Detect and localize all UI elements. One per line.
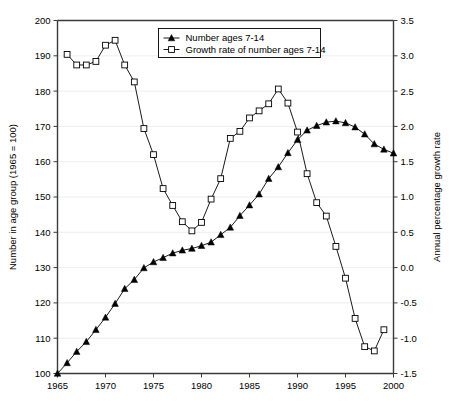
marker-square	[218, 176, 224, 182]
marker-triangle	[275, 164, 282, 170]
left-tick-label-170: 170	[35, 121, 51, 132]
marker-square	[179, 219, 185, 225]
left-tick-label-110: 110	[35, 333, 50, 344]
marker-square	[227, 136, 233, 142]
marker-triangle	[333, 118, 340, 124]
marker-triangle	[208, 239, 215, 245]
clipped-caption	[0, 403, 449, 410]
left-tick-label-180: 180	[35, 86, 51, 97]
x-tick-label-2000: 2000	[383, 380, 404, 391]
left-tick-label-190: 190	[35, 50, 51, 61]
legend-label-0: Number ages 7-14	[186, 32, 265, 43]
x-tick-label-1975: 1975	[143, 380, 164, 391]
right-tick-label-3.0: 3.0	[401, 50, 414, 61]
marker-square	[285, 100, 291, 106]
marker-triangle	[150, 258, 157, 264]
marker-triangle	[304, 127, 311, 133]
marker-triangle	[390, 150, 397, 156]
marker-square	[170, 203, 176, 209]
marker-square	[122, 62, 128, 68]
marker-square	[93, 59, 99, 65]
marker-square	[141, 126, 147, 132]
marker-square	[381, 327, 387, 333]
marker-square	[64, 51, 70, 57]
marker-triangle	[160, 254, 167, 260]
left-tick-label-100: 100	[35, 368, 51, 379]
left-tick-label-130: 130	[35, 262, 51, 273]
marker-square	[189, 228, 195, 234]
marker-square	[247, 115, 253, 121]
marker-triangle	[198, 242, 205, 248]
right-tick-label-0.5: 0.5	[401, 227, 414, 238]
left-axis-title: Number in age group (1965 = 100)	[7, 124, 18, 270]
left-tick-label-160: 160	[35, 156, 51, 167]
marker-triangle	[361, 131, 368, 137]
x-tick-label-1980: 1980	[191, 380, 212, 391]
right-axis-title: Annual percentage growth rate	[431, 132, 442, 262]
x-tick-label-1995: 1995	[335, 380, 356, 391]
marker-square	[352, 316, 358, 322]
marker-square	[237, 128, 243, 134]
left-tick-label-200: 200	[35, 15, 51, 26]
marker-square	[208, 196, 214, 202]
marker-square	[295, 129, 301, 135]
marker-square	[151, 152, 157, 158]
marker-triangle	[313, 122, 320, 128]
right-tick-label-1.0: 1.0	[401, 191, 414, 202]
right-tick-label-1.5: 1.5	[401, 156, 414, 167]
marker-square	[371, 348, 377, 354]
marker-square	[83, 62, 89, 68]
marker-square	[256, 108, 262, 114]
x-tick-label-1970: 1970	[95, 380, 116, 391]
figure-container: 100110120130140150160170180190200-1.5-1.…	[0, 0, 449, 410]
marker-square	[131, 79, 137, 85]
marker-square	[266, 101, 272, 107]
right-tick-label-3.5: 3.5	[401, 15, 414, 26]
marker-square	[343, 275, 349, 281]
x-tick-label-1965: 1965	[47, 380, 68, 391]
marker-square	[199, 220, 205, 226]
marker-square	[333, 244, 339, 250]
legend-marker-square	[169, 47, 175, 53]
right-tick-label-0.0: 0.0	[401, 262, 414, 273]
legend-label-1: Growth rate of number ages 7-14	[186, 44, 326, 55]
x-tick-label-1990: 1990	[287, 380, 308, 391]
marker-square	[362, 344, 368, 350]
marker-square	[323, 213, 329, 219]
marker-triangle	[256, 191, 263, 197]
marker-triangle	[102, 314, 109, 320]
right-tick-label-2.0: 2.0	[401, 121, 414, 132]
marker-square	[314, 200, 320, 206]
marker-square	[112, 37, 118, 43]
marker-square	[304, 171, 310, 177]
right-tick-label--1.0: -1.0	[401, 333, 417, 344]
marker-square	[160, 186, 166, 192]
right-tick-label--0.5: -0.5	[401, 297, 417, 308]
marker-square	[103, 42, 109, 48]
left-tick-label-150: 150	[35, 191, 51, 202]
left-tick-label-120: 120	[35, 297, 51, 308]
marker-triangle	[381, 146, 388, 152]
dual-axis-line-chart: 100110120130140150160170180190200-1.5-1.…	[0, 0, 449, 410]
right-tick-label-2.5: 2.5	[401, 86, 414, 97]
right-tick-label--1.5: -1.5	[401, 368, 417, 379]
x-tick-label-1985: 1985	[239, 380, 260, 391]
left-tick-label-140: 140	[35, 227, 51, 238]
marker-square	[74, 62, 80, 68]
marker-square	[275, 86, 281, 92]
